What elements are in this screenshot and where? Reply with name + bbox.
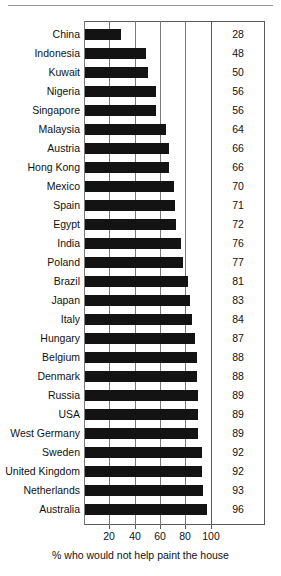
bar [85, 276, 188, 287]
bar-row: Belgium88 [0, 348, 281, 367]
bar-row: Poland77 [0, 253, 281, 272]
value-label: 88 [213, 367, 263, 386]
bar [85, 124, 166, 135]
bar-row: Denmark88 [0, 367, 281, 386]
country-label: Austria [0, 139, 80, 158]
bar [85, 371, 197, 382]
country-label: United Kingdom [0, 462, 80, 481]
value-label: 76 [213, 234, 263, 253]
bar-row: Spain71 [0, 196, 281, 215]
value-label: 92 [213, 443, 263, 462]
x-axis-caption: % who would not help paint the house [0, 549, 281, 561]
country-label: Singapore [0, 101, 80, 120]
country-label: USA [0, 405, 80, 424]
country-label: Hungary [0, 329, 80, 348]
country-label: Indonesia [0, 44, 80, 63]
country-label: Spain [0, 196, 80, 215]
bar-row: Mexico70 [0, 177, 281, 196]
country-label: Australia [0, 500, 80, 519]
bar [85, 295, 190, 306]
bar-row: Singapore56 [0, 101, 281, 120]
bar-row: Japan83 [0, 291, 281, 310]
country-label: Japan [0, 291, 80, 310]
bar [85, 504, 207, 515]
bar-row: Australia96 [0, 500, 281, 519]
country-label: West Germany [0, 424, 80, 443]
bar-row: Italy84 [0, 310, 281, 329]
country-label: Italy [0, 310, 80, 329]
bar [85, 105, 156, 116]
value-label: 89 [213, 405, 263, 424]
bar-row: Kuwait50 [0, 63, 281, 82]
bar-row: Indonesia48 [0, 44, 281, 63]
value-label: 93 [213, 481, 263, 500]
bar-row: Sweden92 [0, 443, 281, 462]
value-label: 64 [213, 120, 263, 139]
country-label: Mexico [0, 177, 80, 196]
bar-row: China28 [0, 25, 281, 44]
x-tick-100 [211, 525, 212, 529]
bar-row: Nigeria56 [0, 82, 281, 101]
bar [85, 162, 169, 173]
country-label: India [0, 234, 80, 253]
value-label: 48 [213, 44, 263, 63]
bar [85, 86, 156, 97]
country-label: Denmark [0, 367, 80, 386]
country-label: Egypt [0, 215, 80, 234]
bar-row: India76 [0, 234, 281, 253]
country-label: Brazil [0, 272, 80, 291]
bar [85, 29, 121, 40]
bar [85, 352, 197, 363]
bar-row: West Germany89 [0, 424, 281, 443]
bar [85, 466, 202, 477]
value-label: 28 [213, 25, 263, 44]
bar-row: Netherlands93 [0, 481, 281, 500]
bar [85, 181, 174, 192]
bar [85, 48, 146, 59]
x-tick-60 [160, 525, 161, 529]
country-label: Sweden [0, 443, 80, 462]
value-label: 56 [213, 82, 263, 101]
value-label: 77 [213, 253, 263, 272]
country-label: Poland [0, 253, 80, 272]
bar [85, 447, 202, 458]
x-tick-40 [135, 525, 136, 529]
value-label: 84 [213, 310, 263, 329]
bar [85, 219, 176, 230]
value-label: 83 [213, 291, 263, 310]
horizontal-bar-chart: China28Indonesia48Kuwait50Nigeria56Singa… [0, 0, 281, 576]
value-label: 66 [213, 158, 263, 177]
value-label: 81 [213, 272, 263, 291]
country-label: Kuwait [0, 63, 80, 82]
bar [85, 143, 169, 154]
value-label: 88 [213, 348, 263, 367]
value-label: 92 [213, 462, 263, 481]
bar-row: Hong Kong66 [0, 158, 281, 177]
bar [85, 200, 175, 211]
bar [85, 314, 192, 325]
bar [85, 485, 203, 496]
country-label: Russia [0, 386, 80, 405]
bar-row: United Kingdom92 [0, 462, 281, 481]
bar [85, 238, 181, 249]
country-label: Hong Kong [0, 158, 80, 177]
x-tick-20 [109, 525, 110, 529]
bar [85, 333, 195, 344]
bar-row: Hungary87 [0, 329, 281, 348]
country-label: Belgium [0, 348, 80, 367]
country-label: Nigeria [0, 82, 80, 101]
bar-row: Russia89 [0, 386, 281, 405]
bar [85, 257, 183, 268]
x-tick-label: 100 [191, 530, 231, 542]
x-tick-80 [185, 525, 186, 529]
value-label: 96 [213, 500, 263, 519]
value-label: 89 [213, 424, 263, 443]
value-label: 89 [213, 386, 263, 405]
bar-row: Austria66 [0, 139, 281, 158]
bar-row: Malaysia64 [0, 120, 281, 139]
bar-row: Brazil81 [0, 272, 281, 291]
value-label: 71 [213, 196, 263, 215]
country-label: Netherlands [0, 481, 80, 500]
bar [85, 390, 198, 401]
value-label: 70 [213, 177, 263, 196]
